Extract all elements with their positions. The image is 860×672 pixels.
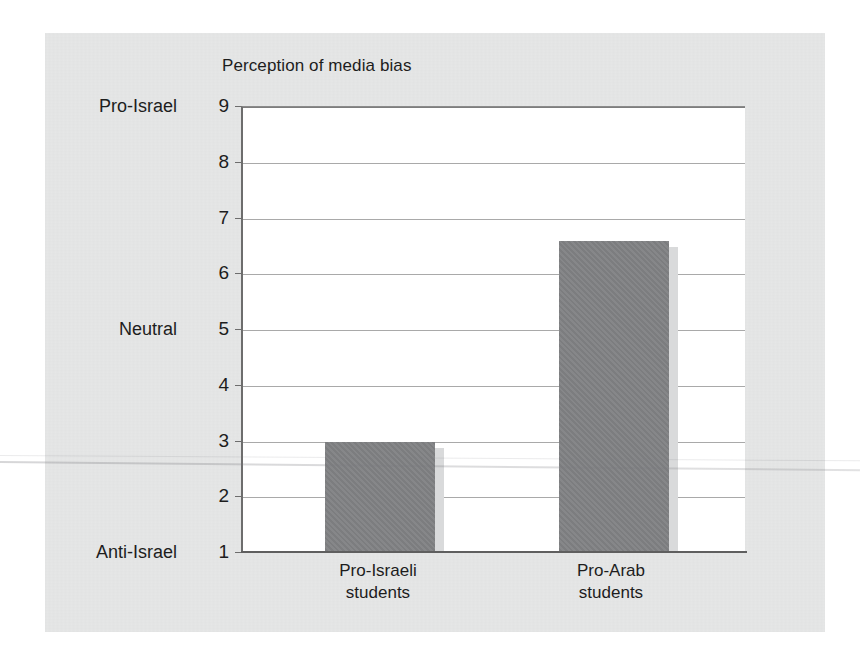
y-tick-mark-1	[235, 552, 241, 553]
y-tick-label-7: 7	[189, 207, 229, 229]
x-label-line-1: Pro-Israeli	[288, 560, 468, 582]
y-tick-label-3: 3	[189, 430, 229, 452]
y-anchor-label-anti-israel: Anti-Israel	[27, 542, 177, 563]
gridline-8	[243, 163, 745, 164]
y-tick-mark-2	[235, 496, 241, 497]
y-anchor-label-pro-israel: Pro-Israel	[27, 96, 177, 117]
bar-pro-arab-students	[559, 241, 669, 553]
y-tick-mark-6	[235, 273, 241, 274]
x-axis-baseline	[241, 551, 747, 553]
scanned-page: Perception of media bias 9 8 7 6 5 4 3 2…	[0, 0, 860, 672]
y-tick-label-1: 1	[189, 541, 229, 563]
y-tick-label-4: 4	[189, 374, 229, 396]
y-tick-mark-4	[235, 385, 241, 386]
y-tick-label-5: 5	[189, 318, 229, 340]
y-tick-label-8: 8	[189, 151, 229, 173]
y-tick-label-6: 6	[189, 262, 229, 284]
y-tick-label-9: 9	[189, 95, 229, 117]
x-label-pro-israeli-students: Pro-Israeli students	[288, 560, 468, 604]
y-tick-mark-9	[235, 106, 241, 107]
chart-title: Perception of media bias	[222, 56, 412, 76]
y-tick-label-2: 2	[189, 485, 229, 507]
y-anchor-label-neutral: Neutral	[27, 319, 177, 340]
x-label-line-1: Pro-Arab	[521, 560, 701, 582]
x-label-line-2: students	[521, 582, 701, 604]
y-tick-mark-7	[235, 218, 241, 219]
y-tick-mark-3	[235, 441, 241, 442]
y-tick-mark-8	[235, 162, 241, 163]
bar-pro-israeli-students	[325, 442, 435, 554]
x-label-pro-arab-students: Pro-Arab students	[521, 560, 701, 604]
gridline-9	[243, 107, 745, 108]
y-tick-mark-5	[235, 329, 241, 330]
gridline-7	[243, 219, 745, 220]
plot-area	[241, 106, 745, 552]
x-label-line-2: students	[288, 582, 468, 604]
